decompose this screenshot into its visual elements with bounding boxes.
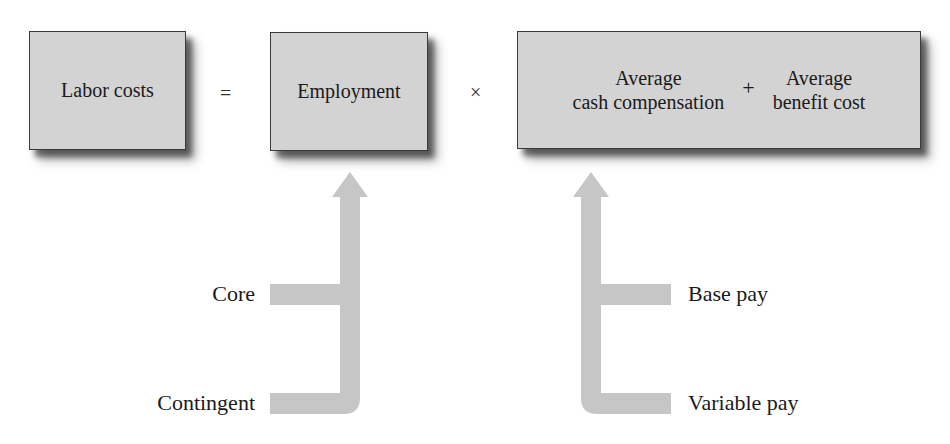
contingent-label: Contingent	[157, 390, 255, 416]
avg-cash-line2: cash compensation	[573, 90, 725, 114]
avg-benefit-line1: Average	[773, 66, 866, 90]
avg-benefit-cost: Average benefit cost	[773, 66, 866, 114]
base-pay-label: Base pay	[688, 281, 768, 307]
labor-costs-box: Labor costs	[29, 31, 186, 150]
avg-cash-line1: Average	[573, 66, 725, 90]
core-label: Core	[212, 281, 255, 307]
avg-benefit-line2: benefit cost	[773, 90, 866, 114]
plus-sign: +	[742, 75, 754, 101]
labor-costs-label: Labor costs	[61, 79, 154, 102]
compensation-box: Average cash compensation + Average bene…	[517, 31, 921, 149]
variable-pay-label: Variable pay	[688, 390, 799, 416]
times-sign: ×	[470, 81, 481, 104]
employment-box: Employment	[270, 32, 428, 151]
avg-cash-compensation: Average cash compensation	[573, 66, 725, 114]
employment-label: Employment	[297, 80, 400, 103]
employment-arrow	[270, 172, 368, 414]
equals-sign: =	[220, 82, 231, 105]
compensation-arrow	[573, 172, 671, 414]
